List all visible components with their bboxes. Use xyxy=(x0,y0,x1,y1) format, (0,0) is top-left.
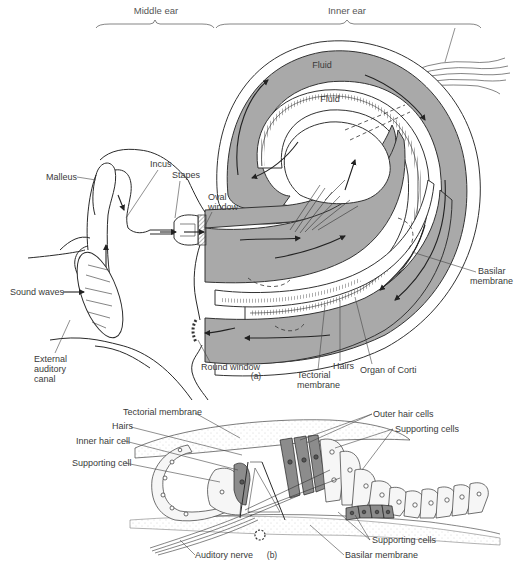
label-external-canal-2: auditory xyxy=(34,364,67,374)
label-hairs-b: Hairs xyxy=(112,421,134,431)
label-outer-hair-cells: Outer hair cells xyxy=(373,409,434,419)
stapes xyxy=(150,215,204,245)
panel-a: Middle ear Inner ear Fluid Flui xyxy=(10,5,513,400)
outer-hair-cells xyxy=(280,435,326,498)
label-basilar-2: membrane xyxy=(470,276,513,286)
middle-ear-brace: Middle ear xyxy=(96,5,214,28)
label-external-canal-3: canal xyxy=(34,374,56,384)
label-tectorial-2: membrane xyxy=(297,380,340,390)
label-supporting-cells-top: Supporting cells xyxy=(395,424,460,434)
panel-b: Tectorial membrane Hairs Inner hair cell… xyxy=(72,407,500,560)
inner-ear-header: Inner ear xyxy=(328,5,366,16)
modiolus-core xyxy=(284,122,390,204)
label-sound-waves: Sound waves xyxy=(10,287,65,297)
inner-ear-brace: Inner ear xyxy=(216,5,481,28)
outer-supporting-cells xyxy=(320,439,488,520)
label-organ-of-corti: Organ of Corti xyxy=(360,365,417,375)
label-auditory-nerve: Auditory nerve xyxy=(195,550,253,560)
caption-a: (a) xyxy=(251,371,262,381)
ear-anatomy-figure: Middle ear Inner ear Fluid Flui xyxy=(0,0,521,570)
figure-canvas: Middle ear Inner ear Fluid Flui xyxy=(0,0,521,570)
label-malleus: Malleus xyxy=(46,172,78,182)
oval-window xyxy=(198,215,206,245)
label-oval-window-1: Oval xyxy=(208,192,227,202)
label-basilar-membrane-b: Basilar membrane xyxy=(345,550,418,560)
label-tectorial-1: Tectorial xyxy=(297,370,331,380)
tympanic-membrane xyxy=(68,247,133,344)
label-supporting-cells-bottom: Supporting cells xyxy=(372,535,437,545)
label-external-canal-1: External xyxy=(34,354,67,364)
fluid-label-inner: Fluid xyxy=(320,94,340,104)
blood-vessel xyxy=(255,530,265,540)
label-inner-hair-cell: Inner hair cell xyxy=(76,436,130,446)
label-tectorial-membrane-b: Tectorial membrane xyxy=(123,407,202,417)
middle-ear-header: Middle ear xyxy=(134,5,178,16)
label-basilar-1: Basilar xyxy=(478,266,506,276)
label-stapes: Stapes xyxy=(172,170,201,180)
label-incus: Incus xyxy=(150,159,172,169)
label-oval-window-2: window xyxy=(207,202,239,212)
label-hairs-a: Hairs xyxy=(333,361,355,371)
fluid-label-outer: Fluid xyxy=(312,60,332,70)
incus xyxy=(115,170,150,233)
round-window xyxy=(193,320,196,342)
caption-b: (b) xyxy=(267,550,278,560)
label-supporting-cell: Supporting cell xyxy=(72,458,132,468)
